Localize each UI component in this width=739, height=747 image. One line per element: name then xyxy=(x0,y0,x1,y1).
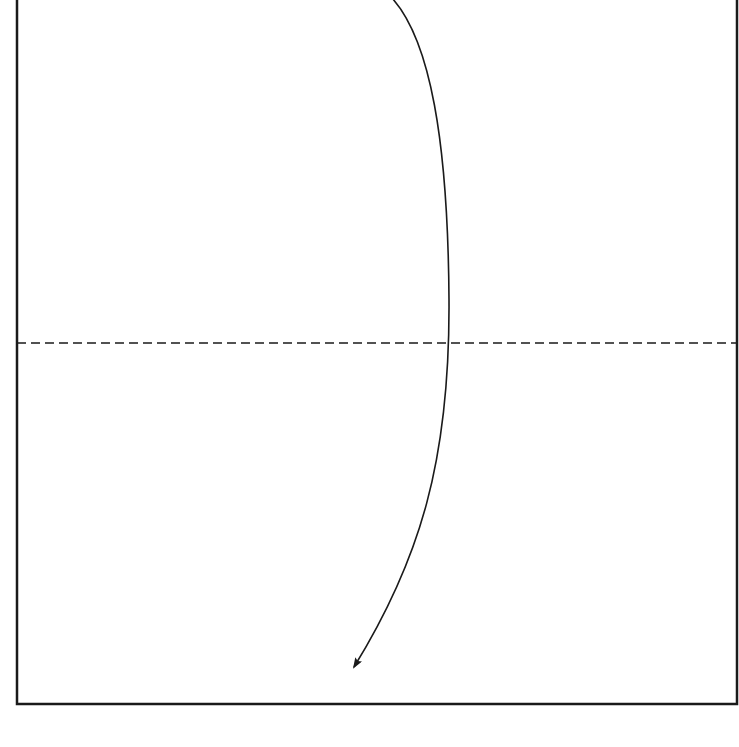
fold-diagram xyxy=(0,0,739,747)
paper-outline xyxy=(17,0,737,704)
fold-arrow-icon xyxy=(354,0,449,667)
